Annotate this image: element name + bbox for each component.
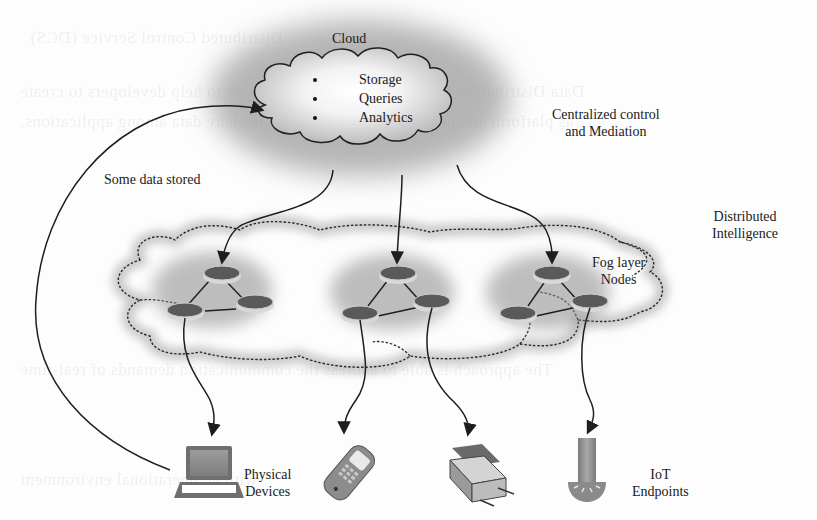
physical-devices-label: Physical Devices: [244, 466, 291, 500]
fog-node: [379, 266, 417, 284]
cloud-service-item: Queries: [313, 89, 413, 108]
cloud-services-list: Storage Queries Analytics: [313, 70, 413, 127]
cloud-title: Cloud: [332, 30, 366, 47]
fog-layer-nodes-label: Fog layer Nodes: [592, 254, 645, 288]
bullet-icon: [313, 97, 317, 101]
scanner-printer-icon: [450, 444, 514, 506]
cloud-to-fog-arrows: [222, 165, 552, 262]
cloud-service-item: Analytics: [313, 108, 413, 127]
laptop-icon: [174, 446, 244, 498]
bullet-icon: [313, 116, 317, 120]
bullet-icon: [313, 78, 317, 82]
distributed-intelligence-label: Distributed Intelligence: [712, 208, 778, 242]
sensor-tower-icon: [568, 438, 606, 502]
fog-cluster-left: [152, 252, 274, 328]
fog-node: [499, 306, 537, 324]
mobile-phone-icon: [320, 442, 379, 504]
fog-node: [203, 266, 241, 284]
fog-cluster-middle: [330, 254, 454, 330]
fog-node: [236, 295, 274, 313]
cloud-service-item: Storage: [313, 70, 413, 89]
some-data-stored-label: Some data stored: [104, 171, 200, 188]
centralized-control-label: Centralized control and Mediation: [552, 106, 660, 140]
diagram-canvas: Distributed Control Service (DCS) Data D…: [0, 0, 817, 520]
iot-endpoints-label: IoT Endpoints: [632, 466, 689, 500]
fog-node: [533, 266, 571, 284]
